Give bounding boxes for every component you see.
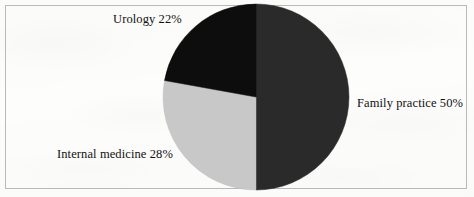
pie-label-urology: Urology 22% xyxy=(113,12,182,27)
pie-chart-figure: Urology 22% Family practice 50% Internal… xyxy=(0,0,474,197)
pie-label-internal-medicine: Internal medicine 28% xyxy=(57,147,173,162)
pie-label-family-practice: Family practice 50% xyxy=(357,96,463,111)
pie-slice-internal-medicine[interactable] xyxy=(163,81,256,191)
pie-slice-family-practice[interactable] xyxy=(256,4,349,190)
chart-plot-area: Urology 22% Family practice 50% Internal… xyxy=(0,0,474,197)
